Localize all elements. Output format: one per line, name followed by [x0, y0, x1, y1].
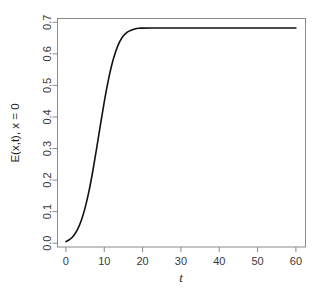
x-tick-label: 0 [63, 255, 69, 267]
y-tick-label: 0.2 [41, 172, 53, 187]
y-tick-label: 0.5 [41, 78, 53, 93]
x-tick-label: 60 [290, 255, 302, 267]
y-tick-label: 0.7 [41, 15, 53, 30]
y-tick-label: 0.0 [41, 236, 53, 251]
x-tick-label: 10 [98, 255, 110, 267]
y-tick-label: 0.3 [41, 141, 53, 156]
x-tick-label: 40 [213, 255, 225, 267]
y-tick-label: 0.1 [41, 204, 53, 219]
x-tick-label: 50 [251, 255, 263, 267]
x-axis-title: t [179, 270, 183, 285]
chart-figure: 0102030405060 0.00.10.20.30.40.50.60.7 E… [0, 0, 320, 294]
y-axis-title: E(x,t), x = 0 [9, 103, 21, 162]
x-tick-label: 20 [136, 255, 148, 267]
y-tick-label: 0.6 [41, 46, 53, 61]
logistic-curve-plot: 0102030405060 0.00.10.20.30.40.50.60.7 E… [0, 0, 320, 294]
x-tick-label: 30 [175, 255, 187, 267]
y-tick-label: 0.4 [41, 109, 53, 124]
